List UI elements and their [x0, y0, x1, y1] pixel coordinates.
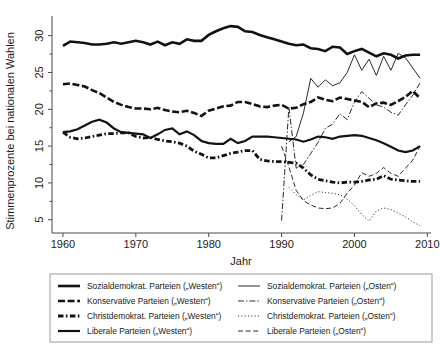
legend-label-1-3: Liberale Parteien („Osten“) [267, 326, 366, 336]
y-tick-label: 25 [33, 66, 45, 78]
y-tick-label: 30 [33, 30, 45, 42]
x-tick-label: 1980 [196, 238, 220, 250]
y-axis-title: Stimmenprozente bei nationalen Wahlen [4, 32, 16, 230]
legend-label-0-2: Christdemokrat. Parteien („Westen“) [87, 311, 222, 321]
legend: Sozialdemokrat. Parteien („Westen“)Konse… [50, 274, 432, 342]
chart-svg: 51015202530196019701980199020002010 Stim… [0, 0, 440, 347]
x-axis-title: Jahr [230, 255, 252, 267]
y-tick-label: 10 [33, 177, 45, 189]
x-tick-label: 1960 [51, 238, 75, 250]
y-tick-label: 15 [33, 140, 45, 152]
x-tick-label: 1970 [124, 238, 148, 250]
chart-figure: 51015202530196019701980199020002010 Stim… [0, 0, 440, 347]
y-tick-label: 5 [33, 217, 45, 223]
legend-label-1-0: Sozialdemokrat. Parteien („Osten“) [267, 281, 397, 291]
x-tick-label: 1990 [269, 238, 293, 250]
legend-label-0-1: Konservative Parteien („Westen“) [87, 296, 211, 306]
legend-label-1-2: Christdemokrat. Parteien („Osten“) [267, 311, 396, 321]
legend-label-0-3: Liberale Parteien („Westen“) [87, 326, 192, 336]
x-tick-label: 2000 [342, 238, 366, 250]
legend-label-0-0: Sozialdemokrat. Parteien („Westen“) [87, 281, 223, 291]
y-tick-label: 20 [33, 103, 45, 115]
legend-label-1-1: Konservative Parteien („Osten“) [267, 296, 385, 306]
x-tick-label: 2010 [415, 238, 439, 250]
